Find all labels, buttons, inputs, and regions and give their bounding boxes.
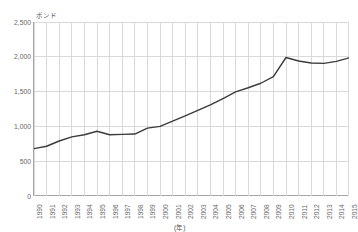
x-axis-tick-label: 2015 [351, 204, 358, 219]
chart-canvas [34, 22, 349, 196]
x-axis-tick-label: 1991 [49, 204, 56, 219]
x-axis-tick-label: 2005 [225, 204, 232, 219]
x-axis-tick-label: 2003 [200, 204, 207, 219]
plot-area [33, 22, 348, 196]
x-axis-tick-label: 2011 [301, 205, 308, 219]
y-axis-unit-label: ポンド [36, 10, 57, 20]
x-axis-tick-label: 2013 [326, 204, 333, 219]
x-axis-tick-label: 2000 [162, 204, 169, 219]
y-axis-tick-label: 2,500 [1, 19, 31, 26]
y-axis-tick-label: 1,000 [1, 123, 31, 130]
x-axis-tick-label: 2014 [338, 204, 345, 219]
x-axis-tick-label: 1995 [99, 204, 106, 219]
x-axis-tick-label: 2004 [212, 204, 219, 219]
x-axis-tick-label: 1993 [74, 204, 81, 219]
x-axis-tick-label: 1996 [112, 204, 119, 219]
y-axis-tick-labels: 05001,0001,5002,0002,500 [0, 0, 31, 232]
data-series-line [34, 58, 349, 149]
x-axis-tick-label: 1997 [124, 204, 131, 219]
x-axis-tick-label: 1990 [36, 204, 43, 219]
x-axis-tick-label: 2008 [263, 204, 270, 219]
x-axis-tick-label: 1992 [61, 204, 68, 219]
x-axis-tick-label: 1998 [137, 204, 144, 219]
y-axis-tick-label: 500 [1, 158, 31, 165]
x-axis-tick-label: 2007 [250, 204, 257, 219]
line-chart: ポンド 05001,0001,5002,0002,500 19901991199… [0, 0, 358, 232]
x-axis-tick-label: 1999 [149, 204, 156, 219]
y-axis-tick-label: 2,000 [1, 53, 31, 60]
x-axis-caption: (年) [174, 222, 185, 232]
x-axis-tick-label: 2010 [288, 204, 295, 219]
x-axis-tick-label: 2001 [175, 204, 182, 219]
x-axis-tick-label: 2002 [187, 204, 194, 219]
x-axis-tick-label: 1994 [86, 204, 93, 219]
x-axis-tick-label: 2012 [313, 204, 320, 219]
y-axis-tick-label: 1,500 [1, 88, 31, 95]
y-axis-tick-label: 0 [1, 193, 31, 200]
x-axis-tick-labels: 1990199119921993199419951996199719981999… [33, 197, 348, 223]
x-axis-tick-label: 2009 [275, 204, 282, 219]
x-axis-tick-label: 2006 [238, 204, 245, 219]
